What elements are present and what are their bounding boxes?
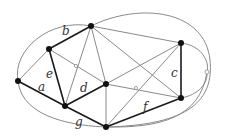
outer-curve-right-upper xyxy=(181,43,208,72)
node-n2 xyxy=(46,46,52,52)
label-c: c xyxy=(171,66,178,80)
edge-n3-n5 xyxy=(91,26,106,84)
edge-g xyxy=(65,106,106,127)
edge-n1-n2 xyxy=(18,49,49,81)
label-g: g xyxy=(75,115,83,129)
node-n5 xyxy=(103,81,109,87)
edge-n5-n8 xyxy=(106,84,181,98)
outer-curve-left xyxy=(17,25,91,81)
crossing-marker xyxy=(205,70,209,74)
graph-diagram: b e a d g c f xyxy=(0,0,227,136)
label-f: f xyxy=(142,100,150,114)
crossing-marker xyxy=(134,86,137,89)
edge-n4-n5 xyxy=(106,43,181,84)
node-n4 xyxy=(178,40,184,46)
outer-curve-bottom-right xyxy=(106,72,207,127)
node-n3 xyxy=(88,23,94,29)
node-n6 xyxy=(62,103,68,109)
node-n8 xyxy=(178,95,184,101)
label-a: a xyxy=(38,80,45,94)
node-n1 xyxy=(15,78,21,84)
node-n7 xyxy=(103,124,109,130)
edge-n4-n7 xyxy=(106,43,181,127)
outer-curve-right-lower xyxy=(181,72,207,98)
label-b: b xyxy=(62,24,70,38)
label-d: d xyxy=(80,81,88,95)
label-e: e xyxy=(46,67,53,81)
crossing-marker xyxy=(74,64,77,67)
edge-n3-n4 xyxy=(91,26,181,43)
